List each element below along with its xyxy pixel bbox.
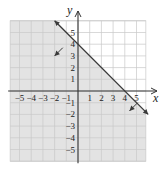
x-tick-label: −2 xyxy=(50,93,60,103)
y-tick-label: −2 xyxy=(65,109,75,119)
y-axis-label: y xyxy=(66,3,73,17)
x-tick-label: 1 xyxy=(87,93,92,103)
x-tick-label: −3 xyxy=(38,93,48,103)
coordinate-plane: −5−4−3−2−112345−5−4−3−2−112345 x y xyxy=(0,0,165,171)
y-tick-label: −3 xyxy=(65,121,75,131)
x-tick-label: 5 xyxy=(134,93,139,103)
y-tick-label: 3 xyxy=(71,51,76,61)
x-tick-label: −4 xyxy=(26,93,36,103)
y-tick-label: 1 xyxy=(71,74,76,84)
y-tick-label: 5 xyxy=(71,28,76,38)
x-tick-label: 4 xyxy=(123,93,128,103)
x-axis-label: x xyxy=(152,91,159,105)
x-tick-label: 2 xyxy=(99,93,104,103)
y-tick-label: −1 xyxy=(65,98,75,108)
y-tick-label: 4 xyxy=(71,39,76,49)
x-tick-label: 3 xyxy=(111,93,116,103)
y-tick-label: −5 xyxy=(65,145,75,155)
x-tick-label: −5 xyxy=(15,93,25,103)
y-tick-label: −4 xyxy=(65,133,75,143)
y-tick-label: 2 xyxy=(71,63,76,73)
